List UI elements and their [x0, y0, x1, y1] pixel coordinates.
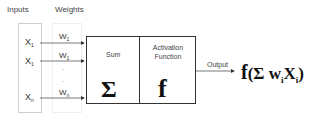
- formula-sigma: Σ: [253, 64, 264, 83]
- sigma-symbol: Σ: [101, 76, 117, 103]
- activation-label-line2: Function: [140, 52, 196, 61]
- output-label: Output: [207, 61, 228, 68]
- formula-f: f: [241, 61, 248, 83]
- sum-label: Sum: [106, 51, 120, 58]
- formula-x: X: [284, 64, 296, 83]
- formula-close-paren: ): [298, 64, 304, 83]
- activation-label: Activation Function: [140, 43, 196, 61]
- output-formula: f(Σ wiXi): [241, 61, 304, 85]
- activation-label-line1: Activation: [140, 43, 196, 52]
- function-symbol: f: [158, 74, 167, 104]
- formula-w: w: [269, 64, 281, 83]
